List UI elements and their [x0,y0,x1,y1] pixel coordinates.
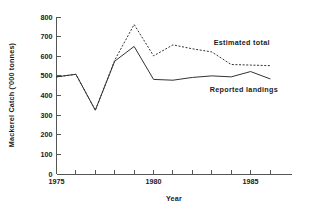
y-tick-label: 600 [41,52,53,61]
x-axis-ticks [57,170,271,174]
y-axis-title: Mackerel Catch ('000 tonnes) [7,42,16,147]
series-label-reported-landings: Reported landings [210,85,278,94]
x-tick-label: 1975 [49,177,65,186]
y-tick-label: 300 [41,111,53,120]
line-chart: 0100200300400500600700800 197519801985 E… [0,0,309,212]
series-line-reported-landings [57,46,271,110]
y-axis-tick-labels: 0100200300400500600700800 [41,13,53,179]
y-tick-label: 400 [41,91,53,100]
x-axis-tick-labels: 197519801985 [49,177,259,186]
x-tick-label: 1980 [146,177,162,186]
chart-container: 0100200300400500600700800 197519801985 E… [0,0,309,212]
y-axis-ticks [57,17,61,174]
y-tick-label: 100 [41,150,53,159]
y-tick-label: 800 [41,13,53,22]
x-axis-title: Year [166,194,182,203]
x-tick-label: 1985 [243,177,259,186]
y-tick-label: 700 [41,32,53,41]
y-tick-label: 200 [41,130,53,139]
series-label-estimated-total: Estimated total [214,38,270,47]
y-tick-label: 500 [41,71,53,80]
